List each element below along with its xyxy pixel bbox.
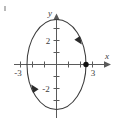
axes-group	[14, 14, 111, 119]
y-tick-label-2: 2	[46, 36, 51, 46]
ellipse-figure: x y -3 3 2 -2	[0, 0, 116, 123]
marked-point-3-0	[83, 62, 88, 67]
x-tick-label-3: 3	[91, 68, 96, 78]
y-tick-label--2: -2	[42, 84, 50, 94]
x-axis-label: x	[104, 51, 109, 61]
x-axis-arrow-icon	[104, 61, 111, 67]
scan-speck	[4, 6, 6, 11]
y-axis-label: y	[47, 8, 52, 18]
x-tick-label--3: -3	[14, 68, 22, 78]
figure-canvas: x y -3 3 2 -2	[0, 0, 116, 123]
